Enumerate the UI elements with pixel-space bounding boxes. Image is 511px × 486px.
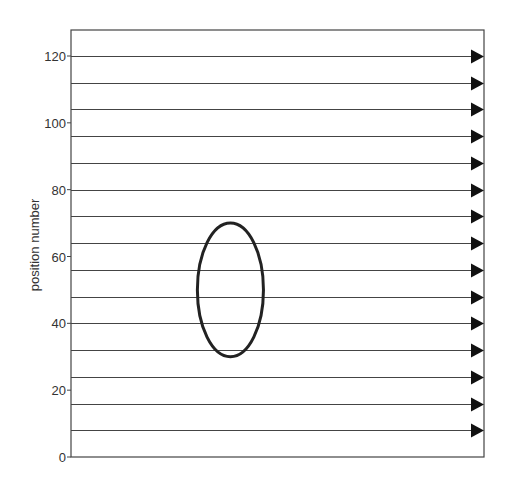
arrow-row <box>71 103 484 117</box>
arrow-row <box>71 344 484 358</box>
arrow-row <box>71 291 484 305</box>
arrowhead-icon <box>471 371 484 385</box>
arrowhead-icon <box>471 237 484 251</box>
y-tick-label: 80 <box>52 183 66 198</box>
arrow-rows <box>71 50 484 438</box>
arrowhead-icon <box>471 264 484 278</box>
diagram-canvas: 020406080100120 position number <box>0 0 511 486</box>
arrow-row <box>71 237 484 251</box>
arrowhead-icon <box>471 50 484 64</box>
arrow-row <box>71 398 484 412</box>
arrow-row <box>71 184 484 198</box>
arrow-row <box>71 264 484 278</box>
y-tick-label: 0 <box>59 450 66 465</box>
y-tick-label: 100 <box>44 116 66 131</box>
arrow-row <box>71 157 484 171</box>
arrowhead-icon <box>471 77 484 91</box>
y-tick-label: 60 <box>52 250 66 265</box>
arrowhead-icon <box>471 398 484 412</box>
arrow-row <box>71 50 484 64</box>
arrowhead-icon <box>471 210 484 224</box>
arrowhead-icon <box>471 103 484 117</box>
arrowhead-icon <box>471 130 484 144</box>
arrow-row <box>71 317 484 331</box>
arrowhead-icon <box>471 184 484 198</box>
y-tick-label: 120 <box>44 49 66 64</box>
arrow-row <box>71 210 484 224</box>
arrow-row <box>71 424 484 438</box>
arrowhead-icon <box>471 291 484 305</box>
arrow-row <box>71 371 484 385</box>
arrow-row <box>71 130 484 144</box>
arrowhead-icon <box>471 157 484 171</box>
arrowhead-icon <box>471 317 484 331</box>
arrowhead-icon <box>471 424 484 438</box>
y-axis-ticks: 020406080100120 <box>44 49 71 465</box>
arrow-row <box>71 77 484 91</box>
arrowhead-icon <box>471 344 484 358</box>
y-axis-label: position number <box>27 198 42 291</box>
y-tick-label: 20 <box>52 383 66 398</box>
y-tick-label: 40 <box>52 316 66 331</box>
